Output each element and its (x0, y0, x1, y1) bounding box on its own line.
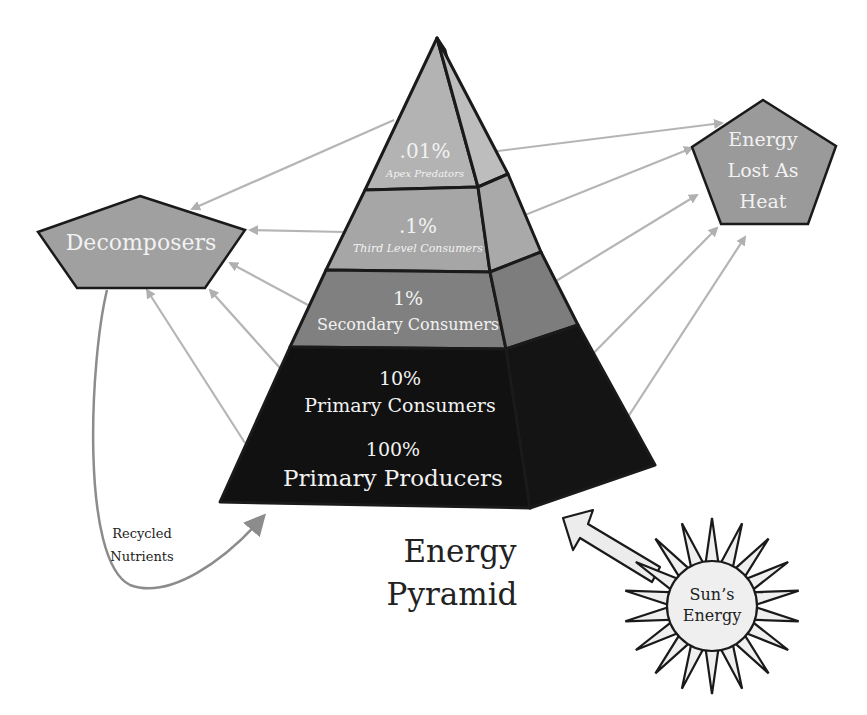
pyramid-level-primary-side (506, 325, 655, 508)
sun-energy-arrow (563, 510, 660, 582)
recycled-label-line1: Recycled (112, 526, 172, 541)
recycled-curve (93, 290, 262, 588)
recycled-nutrients-arrow: Recycled Nutrients (93, 290, 262, 588)
decomposers-label: Decomposers (66, 230, 217, 255)
sun-label-line2: Energy (683, 606, 741, 625)
arrow-secondary-to-heat (538, 195, 697, 292)
arrow-primary-to-decomposers (210, 290, 280, 368)
diagram-title: Energy Pyramid (387, 533, 518, 612)
title-line1: Energy (403, 533, 517, 569)
primary-consumers-percent: 10% (379, 367, 421, 389)
heat-node: Energy Lost As Heat (692, 100, 836, 224)
energy-pyramid-diagram: Decomposers Energy Lost As Heat .01% A (0, 0, 867, 715)
secondary-percent: 1% (393, 287, 423, 309)
producers-percent: 100% (366, 438, 420, 460)
third-percent: .1% (399, 214, 437, 238)
heat-label-line1: Energy (728, 128, 798, 150)
sun-label-line1: Sun’s (690, 585, 735, 604)
arrow-secondary-to-decomposers (230, 263, 308, 305)
title-line2: Pyramid (387, 576, 518, 612)
producers-name: Primary Producers (283, 465, 503, 491)
apex-percent: .01% (400, 139, 451, 163)
block-arrow (563, 510, 660, 582)
arrow-third-to-heat (525, 148, 692, 215)
heat-label-line2: Lost As (728, 159, 799, 181)
primary-consumers-name: Primary Consumers (304, 394, 495, 416)
pyramid-level-secondary-front (290, 270, 506, 349)
arrow-third-to-decomposers (250, 230, 345, 232)
recycled-label-line2: Nutrients (110, 549, 173, 564)
third-name: Third Level Consumers (353, 242, 483, 255)
decomposers-node: Decomposers (38, 196, 245, 288)
pyramid (220, 38, 655, 508)
sun-node: Sun’s Energy (625, 518, 798, 694)
apex-name: Apex Predators (385, 168, 464, 179)
diagram-svg: Decomposers Energy Lost As Heat .01% A (0, 0, 867, 715)
arrow-apex-to-heat (482, 123, 722, 153)
secondary-name: Secondary Consumers (317, 315, 499, 334)
heat-label-line3: Heat (740, 190, 787, 212)
